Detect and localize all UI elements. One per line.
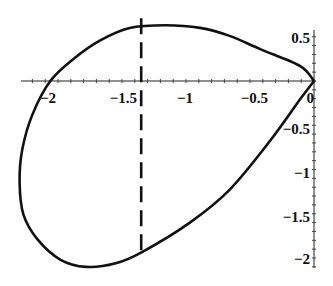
y-tick-label: 0.5 bbox=[291, 30, 310, 46]
x-tick-label: 0 bbox=[307, 90, 315, 106]
x-tick-label: −1 bbox=[177, 90, 193, 106]
x-tick-label: −2 bbox=[40, 90, 56, 106]
x-tick-label: −0.5 bbox=[241, 90, 268, 106]
plot-area: −2 −1.5 −1 −0.5 0 0.5 −0.5 −1 −1.5 −2 bbox=[0, 0, 333, 286]
x-axis bbox=[21, 79, 316, 83]
y-tick-label: −1.5 bbox=[283, 209, 310, 225]
closed-curve bbox=[20, 25, 314, 267]
y-axis bbox=[312, 30, 316, 268]
y-tick-label: −1 bbox=[294, 165, 310, 181]
y-tick-label: −2 bbox=[294, 251, 310, 267]
y-tick-label: −0.5 bbox=[283, 121, 310, 137]
x-tick-label: −1.5 bbox=[110, 90, 137, 106]
